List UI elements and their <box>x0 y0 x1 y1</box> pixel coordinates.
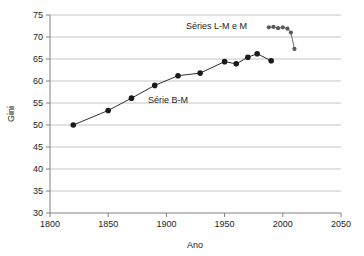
data-point <box>267 25 271 29</box>
x-tick-label: 1900 <box>156 219 176 229</box>
x-tick-label: 1950 <box>215 219 235 229</box>
x-tick-label: 2050 <box>331 219 351 229</box>
x-tick-label: 1800 <box>40 219 60 229</box>
data-point <box>271 25 275 29</box>
data-point <box>281 25 285 29</box>
chart-background <box>0 0 364 256</box>
gini-line-chart: 30354045505560657075 1800185019001950200… <box>0 0 364 256</box>
data-point <box>222 59 228 65</box>
data-point <box>268 58 274 64</box>
data-point <box>292 47 296 51</box>
y-tick-label: 70 <box>33 32 43 42</box>
data-point <box>285 27 289 31</box>
data-point <box>245 54 251 60</box>
data-point <box>233 61 239 67</box>
y-tick-label: 60 <box>33 76 43 86</box>
y-axis-title: Gini <box>6 106 16 122</box>
data-point <box>152 83 158 89</box>
y-tick-label: 35 <box>33 186 43 196</box>
data-point <box>129 95 135 101</box>
data-point <box>276 26 280 30</box>
x-axis-title: Ano <box>187 240 203 250</box>
data-point <box>289 30 293 34</box>
y-tick-label: 50 <box>33 120 43 130</box>
x-tick-label: 2000 <box>273 219 293 229</box>
data-point <box>254 51 260 57</box>
data-point <box>105 108 111 114</box>
data-point <box>70 122 76 128</box>
data-point <box>175 73 181 79</box>
series-label-top: Séries L-M e M <box>186 21 247 31</box>
y-tick-label: 30 <box>33 208 43 218</box>
y-tick-label: 75 <box>33 10 43 20</box>
y-tick-label: 45 <box>33 142 43 152</box>
data-point <box>197 70 203 76</box>
chart-canvas: 30354045505560657075 1800185019001950200… <box>0 0 364 256</box>
x-tick-label: 1850 <box>98 219 118 229</box>
y-tick-label: 40 <box>33 164 43 174</box>
y-tick-label: 55 <box>33 98 43 108</box>
series-label-main: Série B-M <box>148 95 188 105</box>
y-tick-label: 65 <box>33 54 43 64</box>
